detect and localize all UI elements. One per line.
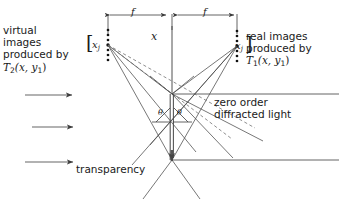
- zero-order-line-2: diffracted light: [214, 108, 291, 120]
- ray-vertex-down-right: [172, 160, 200, 199]
- dot: [107, 59, 110, 62]
- ray-right-to-center: [172, 46, 237, 94]
- incoming-plane-wave-arrows: [25, 95, 73, 162]
- focal-length-left-label: f: [131, 6, 135, 17]
- focal-length-right-label: f: [203, 6, 207, 17]
- virtual-images-line-3: produced by: [3, 48, 69, 60]
- ray-left-to-vertex: [108, 45, 172, 160]
- virtual-T-close: ): [42, 61, 46, 73]
- dot: [107, 34, 110, 37]
- theta-right-label: θ: [177, 108, 182, 117]
- virtual-T-args: (x, y: [15, 61, 38, 73]
- real-T-base: T: [246, 54, 253, 66]
- dot: [107, 49, 110, 52]
- real-T-close: ): [285, 54, 289, 66]
- dot: [107, 39, 110, 42]
- ray-center-up-left: [150, 76, 172, 94]
- virtual-images-line-2: images: [3, 36, 69, 48]
- dimension-lines: [108, 14, 237, 34]
- dot: [236, 55, 239, 58]
- virtual-images-line-1: virtual: [3, 24, 69, 36]
- zero-order-label: zero order diffracted light: [214, 96, 291, 120]
- ray-left-lower-right: [108, 45, 196, 152]
- dot: [236, 30, 239, 33]
- virtual-image-dashed-rays: [108, 45, 255, 139]
- ray-vertex-down-left: [143, 160, 172, 199]
- virtual-T-base: T: [3, 61, 10, 73]
- dot: [107, 29, 110, 32]
- virtual-images-formula: T2(x, y1): [3, 61, 69, 77]
- dot: [107, 54, 110, 57]
- optical-ray-diagram: virtual images produced by T2(x, y1) rea…: [0, 0, 340, 200]
- zero-order-line-1: zero order: [214, 96, 291, 108]
- real-images-formula: T1(x, y1): [246, 54, 312, 70]
- image-point-right-label: xj: [235, 40, 243, 53]
- real-T-args: (x, y: [258, 54, 281, 66]
- image-point-left-label: xj: [92, 39, 100, 52]
- dot: [236, 35, 239, 38]
- axis-x-label: x: [151, 30, 157, 43]
- transparency-plane: [170, 94, 173, 161]
- xj-right-sub: j: [241, 44, 243, 53]
- dot: [236, 60, 239, 63]
- xj-left-sub: j: [98, 43, 100, 52]
- real-images-label: real images produced by T1(x, y1): [246, 30, 312, 71]
- real-images-line-2: produced by: [246, 42, 312, 54]
- bracket-right-icon: ]: [245, 32, 252, 54]
- real-images-line-1: real images: [246, 30, 312, 42]
- virtual-images-label: virtual images produced by T2(x, y1): [3, 24, 69, 77]
- theta-left-label: θ: [158, 108, 163, 117]
- transparency-label: transparency: [76, 163, 145, 175]
- transmitted-rays: [143, 76, 263, 199]
